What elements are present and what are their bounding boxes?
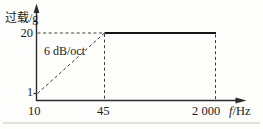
x-tick-label-10: 10 (28, 105, 41, 118)
y-tick-label-1: 1 (27, 86, 33, 98)
x-axis-title: f/Hz (229, 105, 251, 118)
y-tick-label-20: 20 (13, 27, 33, 40)
vibration-profile-figure: 过载/g 20 1 6 dB/oct 10 45 2 000 f/Hz (0, 0, 263, 129)
x-tick-label-2000: 2 000 (192, 105, 220, 118)
x-axis-title-unit: /Hz (232, 104, 250, 118)
slope-annotation: 6 dB/oct (44, 45, 85, 57)
profile-rising-segment-line (38, 33, 105, 94)
x-tick-label-45: 45 (97, 105, 110, 118)
x-axis-arrow-icon (236, 98, 247, 104)
y-axis-title: 过载/g (5, 12, 38, 24)
